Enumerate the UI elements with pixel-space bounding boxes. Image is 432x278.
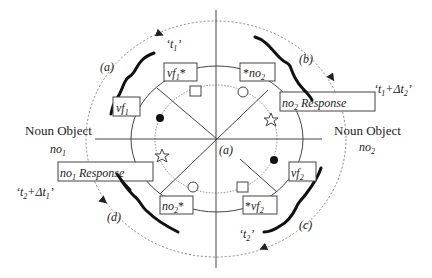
label-no2-response: no2 Response (282, 96, 347, 112)
time-label-t1: ‘t1’ (166, 37, 181, 53)
open-square-marker-top (190, 86, 201, 96)
noun-object-left-title: Noun Object (25, 123, 92, 138)
filled-circle-marker-right (270, 156, 278, 164)
quadrant-label-a-top: (a) (100, 60, 114, 74)
interaction-cycle-diagram: vf1 vf1* *no2 no2 Response no1 Response … (0, 0, 432, 278)
noun-object-right-symbol: no2 (359, 140, 375, 156)
open-circle-marker-top (238, 87, 248, 97)
open-star-marker-left (155, 149, 169, 162)
open-star-marker-right (264, 113, 278, 126)
diagram-canvas: vf1 vf1* *no2 no2 Response no1 Response … (0, 0, 432, 278)
label-no1-response: no1 Response (60, 166, 125, 182)
center-label-a: (a) (219, 143, 233, 157)
open-square-marker-bottom (237, 182, 248, 192)
noun-object-left-symbol: no1 (50, 142, 66, 158)
filled-circle-marker-left (156, 114, 164, 122)
quadrant-label-d: (d) (107, 210, 121, 224)
noun-object-right-title: Noun Object (334, 123, 401, 138)
quadrant-label-b: (b) (299, 52, 313, 66)
label-no2-star: no2* (162, 199, 184, 215)
time-label-t1-dt2: ‘t1+Δt2’ (374, 82, 412, 98)
arrow-b-icon (328, 72, 332, 78)
open-circle-marker-bottom (188, 182, 198, 192)
quadrant-label-c: (c) (299, 218, 312, 232)
diagonal-nw (157, 88, 217, 139)
time-label-t2: ‘t2’ (239, 227, 254, 243)
time-label-t2-dt1: ‘t2+Δt1’ (16, 185, 54, 201)
